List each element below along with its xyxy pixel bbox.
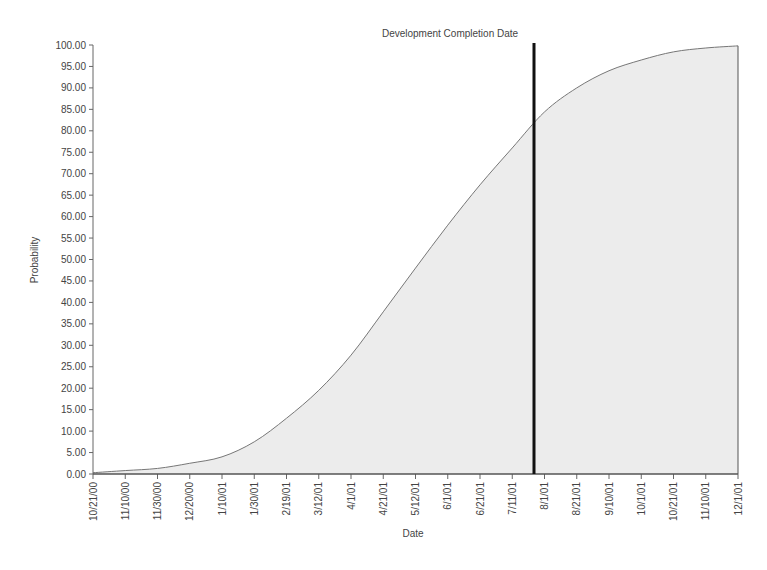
annotation-label: Development Completion Date bbox=[382, 28, 519, 39]
x-tick-label: 2/19/01 bbox=[281, 482, 292, 516]
probability-area bbox=[93, 46, 738, 474]
y-axis-label: Probability bbox=[29, 237, 40, 284]
y-tick-label: 35.00 bbox=[61, 318, 86, 329]
x-tick-label: 9/10/01 bbox=[604, 482, 615, 516]
x-axis-ticks: 10/21/0011/10/0011/30/0012/20/001/10/011… bbox=[88, 474, 744, 521]
x-tick-label: 12/20/00 bbox=[184, 482, 195, 521]
y-tick-label: 5.00 bbox=[67, 447, 87, 458]
x-tick-label: 7/11/01 bbox=[507, 482, 518, 515]
x-tick-label: 11/10/01 bbox=[700, 482, 711, 521]
x-tick-label: 11/30/00 bbox=[152, 482, 163, 521]
x-tick-label: 8/1/01 bbox=[539, 482, 550, 510]
y-axis-ticks: 0.005.0010.0015.0020.0025.0030.0035.0040… bbox=[55, 40, 93, 480]
y-tick-label: 60.00 bbox=[61, 211, 86, 222]
y-tick-label: 15.00 bbox=[61, 404, 86, 415]
x-tick-label: 1/30/01 bbox=[249, 482, 260, 516]
y-tick-label: 25.00 bbox=[61, 361, 86, 372]
y-tick-label: 75.00 bbox=[61, 147, 86, 158]
x-tick-label: 6/21/01 bbox=[475, 482, 486, 516]
y-tick-label: 90.00 bbox=[61, 82, 86, 93]
x-tick-label: 11/10/00 bbox=[120, 482, 131, 521]
y-tick-label: 85.00 bbox=[61, 104, 86, 115]
x-tick-label: 1/10/01 bbox=[217, 482, 228, 516]
y-tick-label: 0.00 bbox=[67, 469, 87, 480]
y-tick-label: 10.00 bbox=[61, 426, 86, 437]
y-tick-label: 65.00 bbox=[61, 190, 86, 201]
x-tick-label: 10/21/00 bbox=[88, 482, 99, 521]
y-tick-label: 40.00 bbox=[61, 297, 86, 308]
probability-chart: 0.005.0010.0015.0020.0025.0030.0035.0040… bbox=[0, 0, 767, 570]
y-tick-label: 55.00 bbox=[61, 233, 86, 244]
x-tick-label: 10/1/01 bbox=[636, 482, 647, 516]
x-tick-label: 4/1/01 bbox=[346, 482, 357, 510]
x-tick-label: 12/1/01 bbox=[733, 482, 744, 516]
x-tick-label: 3/12/01 bbox=[313, 482, 324, 516]
y-tick-label: 100.00 bbox=[55, 40, 86, 51]
x-tick-label: 5/12/01 bbox=[410, 482, 421, 516]
x-tick-label: 6/1/01 bbox=[442, 482, 453, 510]
y-tick-label: 30.00 bbox=[61, 340, 86, 351]
y-tick-label: 95.00 bbox=[61, 61, 86, 72]
y-tick-label: 70.00 bbox=[61, 168, 86, 179]
x-tick-label: 8/21/01 bbox=[571, 482, 582, 516]
y-tick-label: 80.00 bbox=[61, 125, 86, 136]
x-axis-label: Date bbox=[402, 528, 424, 539]
x-tick-label: 10/21/01 bbox=[668, 482, 679, 521]
y-tick-label: 50.00 bbox=[61, 254, 86, 265]
y-tick-label: 20.00 bbox=[61, 383, 86, 394]
x-tick-label: 4/21/01 bbox=[378, 482, 389, 516]
y-tick-label: 45.00 bbox=[61, 275, 86, 286]
